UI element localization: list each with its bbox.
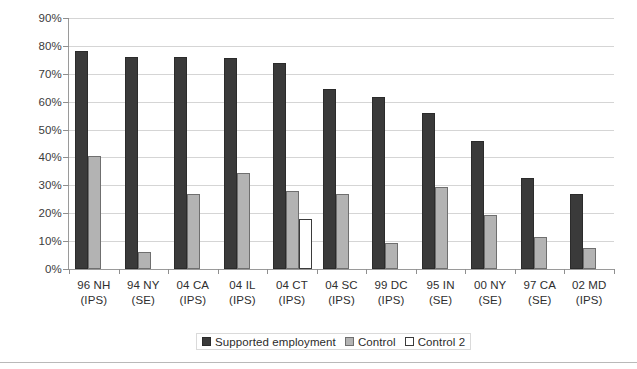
x-label-line-2: (SE) — [465, 293, 515, 308]
bar[interactable] — [534, 237, 547, 269]
x-axis-tick-mark — [564, 269, 565, 274]
gray-swatch — [345, 337, 354, 346]
employment-outcomes-bar-chart: 0%10%20%30%40%50%60%70%80%90% 96 NH(IPS)… — [0, 0, 637, 369]
y-axis-tick-label: 50% — [18, 124, 62, 136]
y-axis-tick-label: 60% — [18, 96, 62, 108]
bar-group — [75, 19, 101, 269]
x-axis-tick-labels: 96 NH(IPS)94 NY(SE)04 CA(IPS)04 IL(IPS)0… — [69, 278, 614, 320]
bar[interactable] — [422, 113, 435, 269]
x-label-line-2: (IPS) — [317, 293, 367, 308]
x-label-line-1: 02 MD — [572, 279, 606, 291]
x-label-line-1: 04 CT — [276, 279, 308, 291]
x-axis-tick-label: 94 NY(SE) — [119, 278, 169, 308]
x-label-line-1: 94 NY — [127, 279, 159, 291]
x-label-line-2: (IPS) — [267, 293, 317, 308]
bar-group — [471, 19, 497, 269]
x-label-line-2: (SE) — [515, 293, 565, 308]
legend-item-label: Control 2 — [418, 336, 466, 348]
bar[interactable] — [273, 63, 286, 269]
x-label-line-1: 97 CA — [523, 279, 555, 291]
y-axis-tick-label: 80% — [18, 40, 62, 52]
y-axis-tick-label: 90% — [18, 12, 62, 24]
bar[interactable] — [224, 58, 237, 269]
x-label-line-1: 00 NY — [474, 279, 506, 291]
x-axis-tick-label: 97 CA(SE) — [515, 278, 565, 308]
bar[interactable] — [88, 156, 101, 269]
bar[interactable] — [125, 57, 138, 269]
bar[interactable] — [237, 173, 250, 269]
bar[interactable] — [138, 252, 151, 269]
x-label-line-1: 04 SC — [325, 279, 357, 291]
bar[interactable] — [336, 194, 349, 269]
bar-group — [224, 19, 250, 269]
white-swatch — [405, 337, 414, 346]
x-label-line-1: 96 NH — [77, 279, 110, 291]
bar[interactable] — [174, 57, 187, 269]
y-axis-tick-label: 70% — [18, 68, 62, 80]
bar-group — [273, 19, 312, 269]
x-axis-tick-mark — [168, 269, 169, 274]
bar[interactable] — [570, 194, 583, 269]
bar[interactable] — [484, 215, 497, 269]
x-label-line-1: 04 CA — [177, 279, 209, 291]
bar-group — [372, 19, 398, 269]
x-label-line-1: 99 DC — [374, 279, 407, 291]
x-axis-tick-mark — [317, 269, 318, 274]
chart-legend: Supported employmentControlControl 2 — [196, 333, 471, 350]
bar-group — [570, 19, 596, 269]
plot-area: 0%10%20%30%40%50%60%70%80%90% 96 NH(IPS)… — [0, 0, 637, 300]
bar[interactable] — [471, 141, 484, 269]
x-axis-tick-mark — [267, 269, 268, 274]
x-axis-tick-label: 00 NY(SE) — [465, 278, 515, 308]
x-axis-tick-mark — [119, 269, 120, 274]
bar-group — [125, 19, 151, 269]
bar[interactable] — [323, 89, 336, 269]
x-axis-tick-marks — [69, 269, 614, 275]
bar-group — [521, 19, 547, 269]
bar[interactable] — [187, 194, 200, 269]
bar-group — [323, 19, 349, 269]
x-label-line-1: 95 IN — [427, 279, 455, 291]
x-axis-tick-label: 99 DC(IPS) — [366, 278, 416, 308]
y-axis-tick-label: 20% — [18, 207, 62, 219]
bottom-divider — [0, 362, 637, 363]
x-label-line-2: (SE) — [119, 293, 169, 308]
x-label-line-2: (SE) — [416, 293, 466, 308]
bars-layer — [69, 0, 614, 300]
bar[interactable] — [75, 51, 88, 269]
x-axis-tick-label: 02 MD(IPS) — [564, 278, 614, 308]
bar-group — [174, 19, 200, 269]
y-axis-tick-label: 0% — [18, 263, 62, 275]
x-label-line-2: (IPS) — [168, 293, 218, 308]
bar[interactable] — [385, 243, 398, 269]
legend-item[interactable]: Control 2 — [405, 336, 466, 348]
bar[interactable] — [583, 248, 596, 269]
x-axis-tick-label: 04 SC(IPS) — [317, 278, 367, 308]
bar[interactable] — [372, 97, 385, 269]
bar[interactable] — [299, 219, 312, 269]
legend-item-label: Supported employment — [215, 336, 336, 348]
x-label-line-2: (IPS) — [218, 293, 268, 308]
x-axis-tick-label: 04 IL(IPS) — [218, 278, 268, 308]
y-axis-tick-label: 10% — [18, 235, 62, 247]
x-label-line-2: (IPS) — [366, 293, 416, 308]
x-axis-tick-label: 96 NH(IPS) — [69, 278, 119, 308]
x-axis-tick-label: 04 CA(IPS) — [168, 278, 218, 308]
x-axis-tick-mark — [515, 269, 516, 274]
x-label-line-2: (IPS) — [69, 293, 119, 308]
bar[interactable] — [286, 191, 299, 269]
x-axis-tick-label: 95 IN(SE) — [416, 278, 466, 308]
legend-item[interactable]: Supported employment — [202, 336, 336, 348]
bar-group — [422, 19, 448, 269]
x-axis-tick-mark — [218, 269, 219, 274]
x-axis-tick-mark — [69, 269, 70, 274]
x-label-line-2: (IPS) — [564, 293, 614, 308]
y-axis-tick-label: 30% — [18, 179, 62, 191]
x-axis-tick-label: 04 CT(IPS) — [267, 278, 317, 308]
dark-swatch — [202, 337, 211, 346]
x-label-line-1: 04 IL — [229, 279, 255, 291]
legend-item[interactable]: Control — [345, 336, 396, 348]
bar[interactable] — [521, 178, 534, 269]
y-axis-tick-labels: 0%10%20%30%40%50%60%70%80%90% — [14, 0, 62, 300]
bar[interactable] — [435, 187, 448, 269]
